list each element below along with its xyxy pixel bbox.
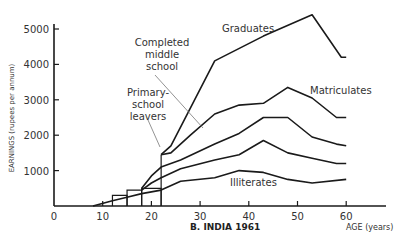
x-tick-label: 40 [242, 211, 255, 222]
y-tick-label: 3000 [24, 95, 49, 106]
label-middle-1: Completed [135, 37, 190, 48]
label-middle-2: middle [145, 49, 179, 60]
y-tick-label: 1000 [24, 166, 49, 177]
x-tick-label: 20 [145, 211, 158, 222]
label-matriculates: Matriculates [310, 85, 372, 96]
x-ticks: 0102030405060 [51, 201, 353, 222]
primary-leader-line [148, 120, 160, 147]
label-primary-3: leavers [130, 111, 166, 122]
series-matriculates [161, 87, 346, 154]
y-tick-label: 2000 [24, 130, 49, 141]
x-tick-label: 60 [340, 211, 353, 222]
x-axis-label: AGE (years) [346, 223, 393, 232]
label-primary-1: Primary- [127, 87, 169, 98]
label-graduates: Graduates [222, 23, 274, 34]
x-tick-label: 0 [51, 211, 57, 222]
earnings-by-age-chart: EARNINGS (rupees per annum) 100020003000… [0, 0, 398, 245]
y-tick-label: 4000 [24, 59, 49, 70]
entry-step [127, 190, 142, 206]
x-tick-label: 10 [96, 211, 109, 222]
label-illiterates: Illiterates [230, 177, 277, 188]
x-tick-label: 50 [291, 211, 304, 222]
y-tick-label: 5000 [24, 24, 49, 35]
label-primary-2: school [132, 99, 164, 110]
label-middle-3: school [146, 61, 178, 72]
y-axis-label: EARNINGS (rupees per annum) [8, 63, 16, 172]
chart-title: B. INDIA 1961 [190, 222, 260, 232]
series-illiterates [93, 171, 346, 206]
x-tick-label: 30 [194, 211, 207, 222]
